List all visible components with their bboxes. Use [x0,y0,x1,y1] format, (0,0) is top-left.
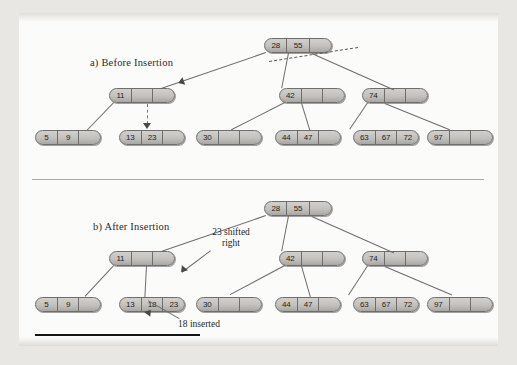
node-cell: 11 [110,89,132,102]
node-leaf[interactable]: 5 9 [35,297,101,312]
node-leaf-modified[interactable]: 13 18 23 [119,297,185,312]
edge-11-to-leaf-5-9 [87,102,114,130]
edge-11-to-leaf-13-18-23 [144,266,147,298]
node-cell: 55 [287,202,309,215]
node-cell-empty [79,298,100,311]
edge-root-to-11 [162,52,266,89]
node-cell: 13 [120,298,142,311]
node-internal-11[interactable]: 11 [109,88,175,103]
node-internal-42[interactable]: 42 [279,251,345,266]
node-cell: 23 [163,298,184,311]
node-cell: 42 [280,252,302,265]
node-internal-74[interactable]: 74 [362,251,428,266]
edge-42-to-leaf-30 [230,265,285,295]
node-leaf[interactable]: 30 [196,297,262,312]
node-cell: 44 [276,131,298,144]
edge-root-to-42 [281,216,289,252]
node-cell-empty [302,252,324,265]
node-cell: 30 [197,131,219,144]
node-cell-empty [406,252,427,265]
dashed-drop-line [147,104,148,124]
node-cell-empty [153,252,174,265]
panel-after-insertion: b) After Insertion 28 55 11 42 74 [19,179,498,346]
node-cell-empty [406,89,427,102]
scanned-paper: a) Before Insertion 28 55 11 42 74 [19,13,498,346]
edge-root-to-74 [312,53,395,91]
edge-74-to-leaf-63-67-72 [349,102,368,129]
node-root[interactable]: 28 55 [264,38,332,53]
node-cell: 74 [363,252,385,265]
node-cell-empty [385,252,407,265]
node-cell: 30 [197,298,219,311]
node-cell: 11 [110,252,132,265]
edge-74-to-leaf-97 [385,103,450,130]
node-cell: 13 [120,131,142,144]
node-cell-empty [450,131,472,144]
node-cell-empty [79,131,100,144]
node-cell-empty [163,131,184,144]
dashed-search-arrowhead [177,77,185,87]
node-cell-empty [240,131,261,144]
edge-42-to-leaf-44-47 [301,103,310,131]
node-internal-11[interactable]: 11 [109,251,175,266]
node-cell: 72 [397,131,418,144]
node-leaf[interactable]: 63 67 72 [353,130,419,145]
node-cell: 44 [276,298,298,311]
node-cell: 97 [428,131,450,144]
node-cell-empty [219,131,241,144]
leader-arrowhead-shifted [178,265,188,275]
annotation-18-inserted: 18 inserted [178,319,262,330]
node-cell-empty [153,89,174,102]
node-cell-empty [240,298,261,311]
node-cell: 28 [265,202,287,215]
footnote-separator-rule [35,334,200,336]
node-cell: 47 [298,131,320,144]
figure-page: a) Before Insertion 28 55 11 42 74 [0,0,517,365]
node-cell: 28 [265,39,287,52]
node-cell-empty [471,298,492,311]
node-root[interactable]: 28 55 [264,201,332,216]
node-cell: 18 [142,298,164,311]
node-cell: 47 [298,298,320,311]
node-cell: 42 [280,89,302,102]
node-cell: 67 [376,131,398,144]
node-cell: 97 [428,298,450,311]
node-cell-empty [323,89,344,102]
node-leaf[interactable]: 44 47 [275,130,341,145]
edge-root-to-42 [281,53,289,89]
node-cell-empty [132,252,154,265]
node-cell-empty [450,298,472,311]
node-leaf[interactable]: 97 [427,130,493,145]
edge-root-to-74 [312,216,395,254]
node-cell: 72 [397,298,418,311]
node-cell-empty [319,131,340,144]
node-leaf[interactable]: 44 47 [275,297,341,312]
node-internal-74[interactable]: 74 [362,88,428,103]
leader-line-shifted [182,250,211,272]
node-leaf[interactable]: 63 67 72 [353,297,419,312]
edge-42-to-leaf-44-47 [301,266,311,297]
node-leaf[interactable]: 30 [196,130,262,145]
node-cell-empty [132,89,154,102]
node-cell-empty [219,298,241,311]
node-leaf[interactable]: 97 [427,297,493,312]
node-cell: 55 [287,39,309,52]
node-internal-42[interactable]: 42 [279,88,345,103]
node-cell-empty [323,252,344,265]
node-cell: 5 [36,298,58,311]
node-cell: 9 [58,131,80,144]
node-cell-empty [319,298,340,311]
edge-42-to-leaf-30 [231,102,285,130]
annotation-23-shifted-right: 23 shifted right [195,227,267,249]
node-leaf[interactable]: 13 23 [119,130,185,145]
node-cell: 9 [58,298,80,311]
panel-before-title: a) Before Insertion [90,57,173,68]
node-cell: 74 [363,89,385,102]
node-cell-empty [471,131,492,144]
node-cell-empty [310,39,331,52]
node-cell-empty [385,89,407,102]
edge-11-to-leaf-5-9 [85,265,114,296]
panel-after-title: b) After Insertion [93,221,170,232]
dashed-drop-arrowhead [143,123,151,129]
node-leaf[interactable]: 5 9 [35,130,101,145]
